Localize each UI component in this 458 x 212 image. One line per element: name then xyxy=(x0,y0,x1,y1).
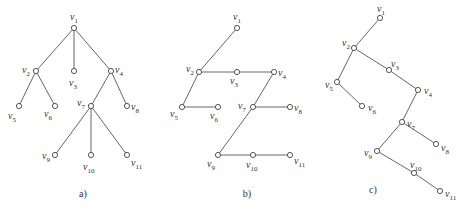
node-label-v10: v10 xyxy=(410,159,422,173)
node-label-v3: v3 xyxy=(391,58,399,72)
tree-diagrams-figure: v1v2v3v4v5v6v7v8v9v10v11a)v1v2v3v4v5v6v7… xyxy=(0,0,458,212)
node-label-v7: v7 xyxy=(407,118,415,132)
edge-v2-v5 xyxy=(182,72,199,107)
node-v8 xyxy=(433,141,438,146)
node-label-v10: v10 xyxy=(246,159,258,173)
edge-v7-v9 xyxy=(218,107,253,155)
node-v10 xyxy=(88,152,93,157)
node-label-v5: v5 xyxy=(170,108,178,122)
node-label-v5: v5 xyxy=(325,79,333,93)
node-v4 xyxy=(415,87,420,92)
node-label-v2: v2 xyxy=(186,63,194,77)
edge-v3-v4 xyxy=(389,70,418,90)
edge-v9-v10 xyxy=(377,151,414,173)
node-label-v3: v3 xyxy=(69,77,77,91)
tree-panel-c: v1v2v3v4v5v6v7v8v9v10v11c) xyxy=(325,3,457,202)
node-label-v11: v11 xyxy=(445,188,457,202)
edge-v7-v11 xyxy=(91,106,127,155)
node-label-v9: v9 xyxy=(364,147,372,161)
node-label-v6: v6 xyxy=(368,102,376,116)
node-label-v7: v7 xyxy=(238,100,246,114)
node-v2 xyxy=(351,45,356,50)
edge-v4-v7 xyxy=(91,71,111,106)
edge-v2-v3 xyxy=(354,48,389,70)
edge-v7-v9 xyxy=(377,122,402,151)
tree-panel-a: v1v2v3v4v5v6v7v8v9v10v11a) xyxy=(8,11,143,200)
node-label-v4: v4 xyxy=(278,67,286,81)
node-label-v7: v7 xyxy=(77,97,85,111)
node-v1 xyxy=(234,25,239,30)
node-v7 xyxy=(399,119,404,124)
node-v5 xyxy=(334,79,339,84)
node-label-v4: v4 xyxy=(115,64,123,78)
node-v7 xyxy=(250,104,255,109)
node-label-v3: v3 xyxy=(230,75,238,89)
node-v3 xyxy=(234,69,239,74)
node-v11 xyxy=(287,152,292,157)
edge-v7-v9 xyxy=(55,106,91,155)
node-v6 xyxy=(215,104,220,109)
panel-label: b) xyxy=(243,188,251,200)
node-label-v9: v9 xyxy=(42,150,50,164)
node-v5 xyxy=(16,103,21,108)
panel-label: a) xyxy=(79,188,87,200)
node-v8 xyxy=(287,104,292,109)
node-v9 xyxy=(215,152,220,157)
node-v8 xyxy=(124,103,129,108)
node-label-v1: v1 xyxy=(233,11,241,25)
node-v1 xyxy=(71,25,76,30)
node-v11 xyxy=(124,152,129,157)
node-label-v1: v1 xyxy=(377,3,385,17)
node-v6 xyxy=(359,103,364,108)
edge-v10-v11 xyxy=(414,173,440,191)
node-label-v8: v8 xyxy=(441,142,449,156)
node-label-v1: v1 xyxy=(70,11,78,25)
node-v4 xyxy=(108,68,113,73)
edge-v1-v2 xyxy=(199,28,237,72)
node-label-v2: v2 xyxy=(22,64,30,78)
edge-v1-v2 xyxy=(354,18,380,48)
node-v2 xyxy=(33,68,38,73)
node-label-v8: v8 xyxy=(294,102,302,116)
node-v9 xyxy=(52,152,57,157)
node-v4 xyxy=(271,69,276,74)
node-label-v8: v8 xyxy=(131,101,139,115)
node-v10 xyxy=(250,152,255,157)
panel-label: c) xyxy=(369,184,377,196)
node-label-v4: v4 xyxy=(424,85,432,99)
node-label-v9: v9 xyxy=(207,158,215,172)
tree-panel-b: v1v2v3v4v5v6v7v8v9v10v11b) xyxy=(170,11,306,200)
edge-v1-v4 xyxy=(74,28,111,71)
node-label-v11: v11 xyxy=(131,157,143,171)
node-v9 xyxy=(374,148,379,153)
node-v3 xyxy=(71,68,76,73)
node-label-v6: v6 xyxy=(44,108,52,122)
node-v2 xyxy=(196,69,201,74)
edge-v4-v7 xyxy=(253,72,274,107)
node-label-v11: v11 xyxy=(294,155,306,169)
node-label-v6: v6 xyxy=(210,110,218,124)
edge-v5-v6 xyxy=(337,82,362,106)
edge-v1-v2 xyxy=(36,28,74,71)
node-label-v2: v2 xyxy=(342,37,350,51)
node-v5 xyxy=(179,104,184,109)
node-v7 xyxy=(88,103,93,108)
edge-v2-v5 xyxy=(337,48,354,82)
edge-v2-v6 xyxy=(36,71,55,106)
node-v6 xyxy=(52,103,57,108)
node-label-v10: v10 xyxy=(83,161,95,175)
node-v11 xyxy=(437,188,442,193)
node-label-v5: v5 xyxy=(8,110,16,124)
